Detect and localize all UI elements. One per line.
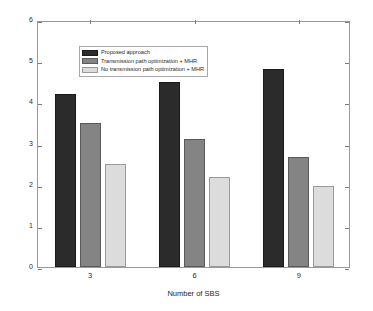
bar: [263, 69, 284, 267]
legend-item-label: No transmission path optimization + MHR: [101, 66, 204, 73]
legend-item-label: Proposed approach: [101, 49, 150, 56]
y-tick-label: 2: [21, 181, 33, 188]
bar: [209, 177, 230, 267]
bar: [55, 94, 76, 267]
y-tick-mark-right: [345, 146, 349, 147]
figure-canvas: 0123456 369 Proposed approachTransmissio…: [0, 0, 373, 311]
bar: [159, 82, 180, 267]
legend-item-label: Transmission path optimization + MHR: [101, 58, 197, 65]
y-tick-mark-right: [345, 187, 349, 188]
y-tick-mark: [38, 63, 42, 64]
y-tick-mark: [38, 104, 42, 105]
y-tick-mark-right: [345, 269, 349, 270]
legend-item: Transmission path optimization + MHR: [82, 57, 204, 65]
chart-legend: Proposed approachTransmission path optim…: [79, 46, 208, 77]
bar: [105, 164, 126, 267]
x-tick-mark-top: [90, 20, 91, 24]
bar: [313, 186, 334, 268]
y-tick-mark: [38, 146, 42, 147]
y-tick-label: 0: [21, 263, 33, 270]
legend-item: Proposed approach: [82, 49, 204, 57]
legend-swatch-icon: [82, 67, 98, 73]
y-tick-mark-right: [345, 63, 349, 64]
x-tick-label: 3: [78, 271, 102, 280]
x-axis-title: Number of SBS: [37, 289, 350, 298]
y-tick-mark: [38, 22, 42, 23]
y-tick-label: 3: [21, 140, 33, 147]
y-tick-label: 4: [21, 98, 33, 105]
y-tick-label: 5: [21, 57, 33, 64]
x-tick-mark-top: [299, 20, 300, 24]
legend-swatch-icon: [82, 50, 98, 56]
y-tick-mark: [38, 269, 42, 270]
x-tick-label: 6: [183, 271, 207, 280]
bar: [80, 123, 101, 267]
y-tick-label: 1: [21, 222, 33, 229]
y-tick-mark-right: [345, 22, 349, 23]
bar: [184, 139, 205, 267]
x-tick-label: 9: [287, 271, 311, 280]
legend-swatch-icon: [82, 58, 98, 64]
y-tick-label: 6: [21, 16, 33, 23]
y-tick-mark: [38, 187, 42, 188]
x-tick-mark-top: [195, 20, 196, 24]
y-tick-mark: [38, 228, 42, 229]
plot-area: 0123456 369 Proposed approachTransmissio…: [37, 21, 350, 268]
y-tick-mark-right: [345, 228, 349, 229]
bar: [288, 157, 309, 267]
y-tick-mark-right: [345, 104, 349, 105]
legend-item: No transmission path optimization + MHR: [82, 66, 204, 74]
